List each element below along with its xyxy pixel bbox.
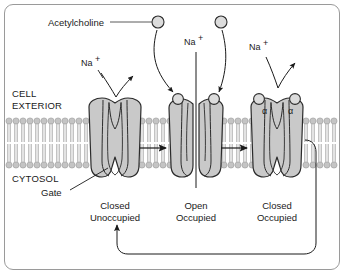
gate-label: Gate xyxy=(41,187,62,198)
binding-arrow-right xyxy=(219,30,226,92)
svg-text:+: + xyxy=(95,54,100,64)
binding-arrow-left xyxy=(154,30,173,92)
alpha-subunit-label-left: α xyxy=(262,106,267,116)
alpha-subunit-label-right: α xyxy=(288,106,293,116)
bilayer-segment-mid-right xyxy=(221,118,255,168)
svg-text:Occupied: Occupied xyxy=(176,212,216,223)
receptor-closed-unoccupied[interactable] xyxy=(89,98,141,177)
cell-exterior-label-line2: EXTERIOR xyxy=(12,100,62,111)
receptor-diagram: Acetylcholine Na + Na + Na + CELL EXTERI… xyxy=(0,0,346,277)
svg-text:Na: Na xyxy=(81,58,93,68)
bound-ligand-right-open xyxy=(209,94,220,105)
bound-ligand-left-desens xyxy=(254,94,265,105)
bilayer-segment-left xyxy=(6,118,89,168)
state-label-closed-occupied: Closed Occupied xyxy=(257,200,297,223)
na-flux-blocked-right xyxy=(266,57,295,88)
bound-ligand-right-desens xyxy=(290,94,301,105)
receptor-closed-occupied[interactable] xyxy=(251,98,303,177)
svg-text:+: + xyxy=(198,33,203,43)
na-flux-blocked-left xyxy=(101,73,133,97)
figure-root: Acetylcholine Na + Na + Na + CELL EXTERI… xyxy=(0,0,346,277)
state-label-closed-unoccupied: Closed Unoccupied xyxy=(90,200,140,223)
svg-text:Open: Open xyxy=(184,200,207,211)
free-ligand-right xyxy=(215,16,227,28)
svg-text:Closed: Closed xyxy=(100,200,130,211)
state-label-open-occupied: Open Occupied xyxy=(176,200,216,223)
free-ligand-left xyxy=(152,16,164,28)
na-label-left: Na + xyxy=(81,54,100,68)
svg-text:Occupied: Occupied xyxy=(257,212,297,223)
svg-text:+: + xyxy=(263,38,268,48)
svg-text:Unoccupied: Unoccupied xyxy=(90,212,140,223)
cell-exterior-label-line1: CELL xyxy=(12,88,37,99)
acetylcholine-label: Acetylcholine xyxy=(48,17,104,28)
bilayer-segment-mid-left xyxy=(139,118,173,168)
svg-text:Na: Na xyxy=(184,37,196,47)
bilayer-segment-right xyxy=(303,118,337,168)
cytosol-label: CYTOSOL xyxy=(12,173,59,184)
na-label-right: Na + xyxy=(249,38,268,52)
na-label-middle: Na + xyxy=(184,33,203,47)
svg-text:Closed: Closed xyxy=(262,200,292,211)
gate-leader-line xyxy=(70,168,108,190)
svg-text:Na: Na xyxy=(249,42,261,52)
bound-ligand-left-open xyxy=(173,94,184,105)
